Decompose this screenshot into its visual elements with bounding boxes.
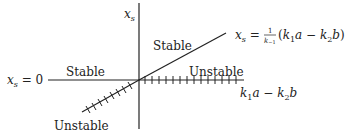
diagonal-branch-expression: (k1a − k2b) [278,28,345,44]
stable-label-upper: Stable [153,39,192,53]
unstable-label-right: Unstable [189,65,244,79]
vertical-axis-label: xs [124,7,135,23]
unstable-label-lower: Unstable [54,119,109,133]
diagonal-branch-equation: xs = [235,28,260,44]
fraction-denominator: k−1 [264,37,276,45]
left-branch-equation: xs = 0 [7,73,43,89]
stable-label-left: Stable [66,65,105,79]
fraction-numerator: 1 [268,27,272,35]
horizontal-axis-label: k1a − k2b [240,86,297,102]
bifurcation-diagram: xs Stable xs = 1 k−1 (k1a − k2b) xs = 0 … [0,0,351,135]
unstable-branch-diagonal [82,80,139,112]
